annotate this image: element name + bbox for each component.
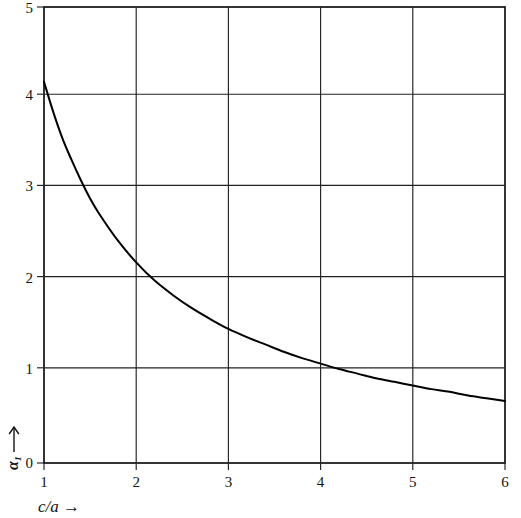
x-tick-label-3: 3: [225, 474, 233, 490]
line-chart: 5 4 3 2 1 0 1 2 3 4 5 6 c/a → α₁: [0, 0, 521, 518]
y-axis-title: α₁: [4, 427, 21, 470]
x-tick-label-1: 1: [40, 474, 48, 490]
y-tick-label-4: 4: [26, 87, 34, 103]
y-tick-label-3: 3: [26, 178, 34, 194]
x-axis-title: c/a →: [38, 497, 80, 516]
x-axis-title-text: c/a →: [38, 497, 80, 516]
y-tick-label-5: 5: [26, 0, 34, 16]
x-tick-label-4: 4: [317, 474, 325, 490]
y-tick-label-2: 2: [26, 270, 34, 286]
x-tick-marks: [44, 463, 505, 470]
y-tick-label-1: 1: [26, 361, 34, 377]
x-tick-label-6: 6: [501, 474, 509, 490]
x-tick-label-2: 2: [132, 474, 140, 490]
x-tick-label-5: 5: [409, 474, 417, 490]
vertical-gridlines: [136, 7, 413, 463]
data-curve: [44, 82, 505, 401]
y-tick-label-0: 0: [26, 455, 34, 471]
y-tick-labels: 5 4 3 2 1 0: [26, 0, 34, 471]
y-axis-title-text: α₁: [4, 456, 21, 470]
horizontal-gridlines: [44, 94, 505, 368]
chart-figure: 5 4 3 2 1 0 1 2 3 4 5 6 c/a → α₁: [0, 0, 521, 518]
y-tick-marks: [37, 7, 44, 463]
x-tick-labels: 1 2 3 4 5 6: [40, 474, 509, 490]
